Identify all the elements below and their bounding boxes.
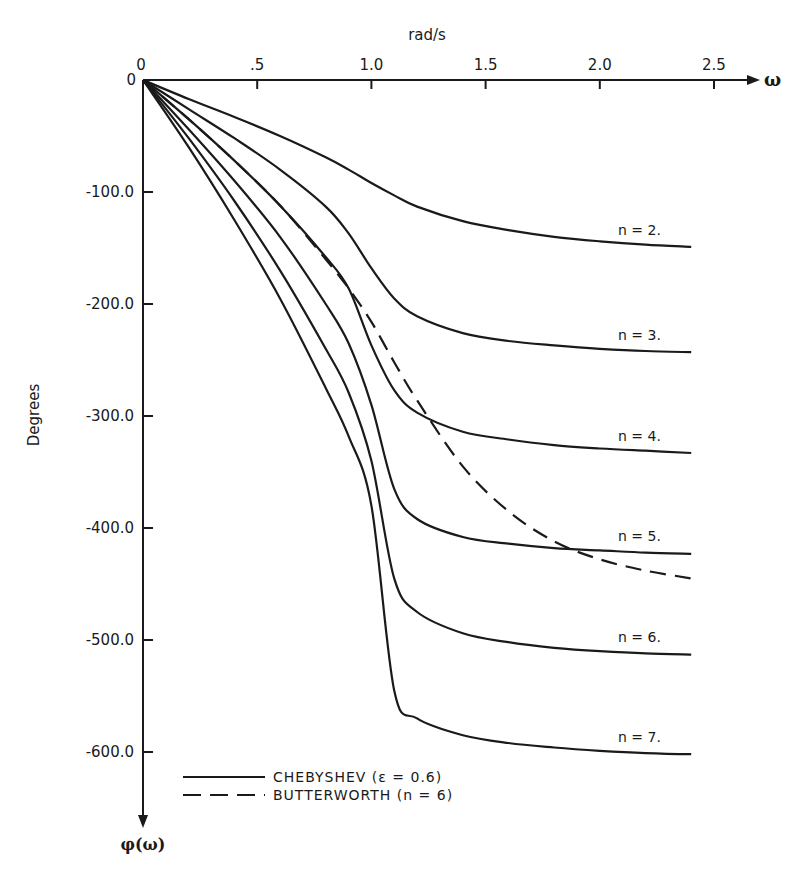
x-ticks: 0.51.01.52.02.5 [136,56,726,89]
butterworth-curve [143,80,691,578]
curve-label: n = 5. [618,528,661,544]
y-tick-label: -500.0 [86,631,134,649]
legend-label-butterworth: BUTTERWORTH (n = 6) [273,787,453,803]
y-tick-label: -300.0 [86,407,134,425]
curve-label: n = 7. [618,729,661,745]
y-tick-label: -100.0 [86,183,134,201]
axes [143,80,752,820]
curve-label: n = 2. [618,222,661,238]
curves [143,80,691,754]
x-tick-label: 0 [136,56,146,74]
chebyshev-curve [143,80,691,247]
y-tick-label: 0 [126,71,136,89]
x-tick-label: 1.0 [359,56,383,74]
x-axis-title: rad/s [408,26,446,44]
y-axis-symbol: φ(ω) [121,835,166,854]
y-axis-arrow-icon [138,815,148,828]
curve-label: n = 3. [618,327,661,343]
x-axis-symbol: ω [764,69,781,90]
y-tick-label: -200.0 [86,295,134,313]
phase-response-chart: 0.51.01.52.02.5 0-100.0-200.0-300.0-400.… [0,0,802,869]
chebyshev-curve [143,80,691,655]
legend-label-chebyshev: CHEBYSHEV (ε = 0.6) [273,769,442,785]
x-axis-arrow-icon [747,75,760,85]
chebyshev-curve [143,80,691,453]
y-axis-title: Degrees [25,384,43,447]
curve-label: n = 6. [618,629,661,645]
curve-labels: n = 2.n = 3.n = 4.n = 5.n = 6.n = 7. [618,222,661,745]
x-tick-label: 2.5 [702,56,726,74]
x-tick-label: 1.5 [474,56,498,74]
x-tick-label: 2.0 [588,56,612,74]
x-tick-label: .5 [250,56,264,74]
y-tick-label: -400.0 [86,519,134,537]
chebyshev-curve [143,80,691,754]
curve-label: n = 4. [618,428,661,444]
chebyshev-curve [143,80,691,352]
y-tick-label: -600.0 [86,743,134,761]
legend: CHEBYSHEV (ε = 0.6) BUTTERWORTH (n = 6) [183,769,453,803]
